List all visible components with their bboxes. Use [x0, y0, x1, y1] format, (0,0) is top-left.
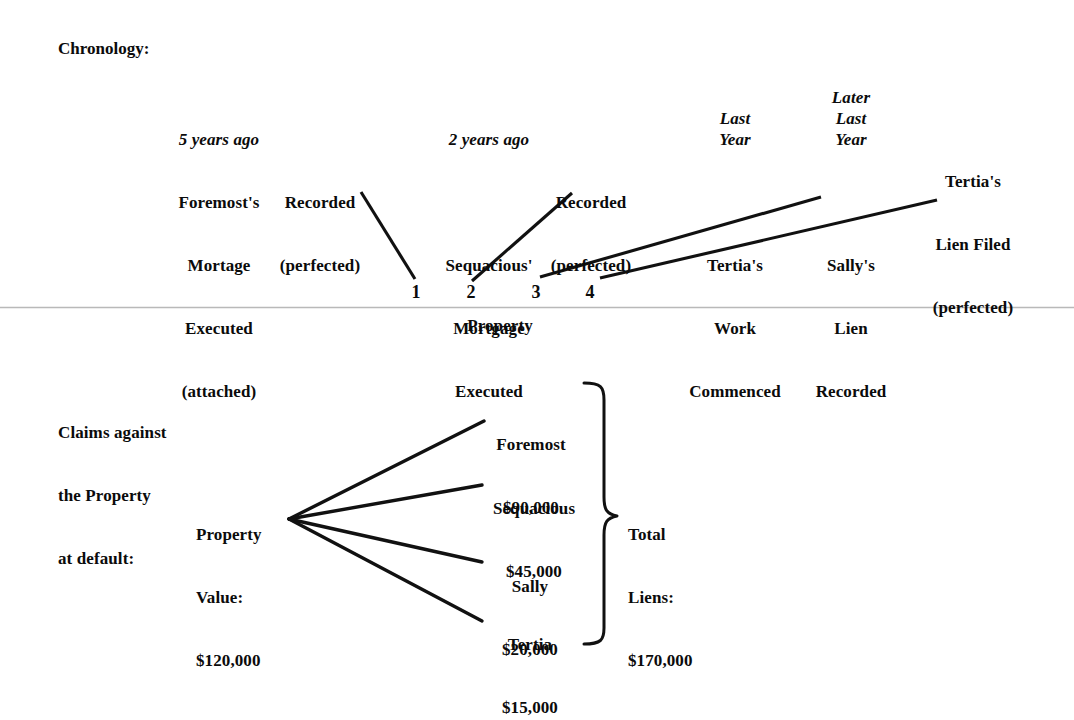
event-tertia-work-commenced: Last Year Tertia's Work Commenced [689, 66, 781, 444]
event-time-label: 2 years ago [445, 129, 532, 150]
event-spacer [445, 192, 532, 213]
event-line: Commenced [689, 381, 781, 402]
event-line: Foremost's [179, 192, 260, 213]
event-spacer [689, 192, 781, 213]
total-liens-amount: $170,000 [628, 650, 693, 671]
connector-foremost-recorded-to-1 [361, 192, 415, 279]
claims-heading-line: the Property [58, 485, 167, 506]
fanline-sequacious [289, 485, 482, 519]
event-foremost-recorded: Recorded (perfected) [280, 150, 360, 318]
event-line: Lien [816, 318, 887, 339]
lienholder-name: Foremost [496, 434, 565, 455]
claims-heading-line: at default: [58, 548, 167, 569]
event-sequacious-mortgage-executed: 2 years ago Sequacious' Mortgage Execute… [445, 87, 532, 444]
property-value-amount: $120,000 [196, 650, 262, 671]
event-line: Recorded [280, 192, 360, 213]
total-liens-label: Total [628, 524, 693, 545]
event-line: (perfected) [933, 297, 1013, 318]
event-time-label: 5 years ago [179, 129, 260, 150]
event-line: Recorded [816, 381, 887, 402]
total-liens-brace [584, 383, 617, 644]
event-line: Work [689, 318, 781, 339]
event-line: (perfected) [551, 255, 631, 276]
property-label: Property [467, 315, 533, 336]
event-line: Sally's [816, 255, 887, 276]
event-line: (perfected) [280, 255, 360, 276]
event-sally-lien-recorded: Later Last Year Sally's Lien Recorded [816, 45, 887, 444]
claims-heading-line: Claims against [58, 422, 167, 443]
total-liens-label: Liens: [628, 587, 693, 608]
chronology-heading: Chronology: [58, 38, 149, 59]
event-line: Executed [179, 318, 260, 339]
total-liens-node: Total Liens: $170,000 [628, 482, 693, 713]
timeline-marker-1: 1 [412, 283, 421, 301]
lienholder-tertia: Tertia $15,000 [502, 592, 558, 720]
event-line: (attached) [179, 381, 260, 402]
event-line: Recorded [551, 192, 631, 213]
property-value-node: Property Value: $120,000 [196, 482, 262, 713]
event-time-label: Last Year [689, 108, 781, 150]
lienholder-name: Sequacious [493, 498, 575, 519]
timeline-marker-2: 2 [467, 283, 476, 301]
property-value-label: Property [196, 524, 262, 545]
event-spacer [816, 192, 887, 213]
fanline-tertia [289, 519, 482, 621]
event-line: Lien Filed [933, 234, 1013, 255]
fanline-sally [289, 519, 482, 562]
event-time-label: Later Last Year [816, 87, 887, 150]
event-foremost-mortgage-executed: 5 years ago Foremost's Mortage Executed … [179, 87, 260, 444]
property-value-label: Value: [196, 587, 262, 608]
event-line: Sequacious' [445, 255, 532, 276]
event-tertia-lien-filed: Tertia's Lien Filed (perfected) [933, 129, 1013, 360]
event-line: Tertia's [689, 255, 781, 276]
lienholder-name: Tertia [502, 634, 558, 655]
timeline-marker-3: 3 [532, 283, 541, 301]
event-line: Mortage [179, 255, 260, 276]
event-line: Tertia's [933, 171, 1013, 192]
timeline-marker-4: 4 [586, 283, 595, 301]
lienholder-amount: $15,000 [502, 697, 558, 718]
claims-heading: Claims against the Property at default: [58, 380, 167, 611]
